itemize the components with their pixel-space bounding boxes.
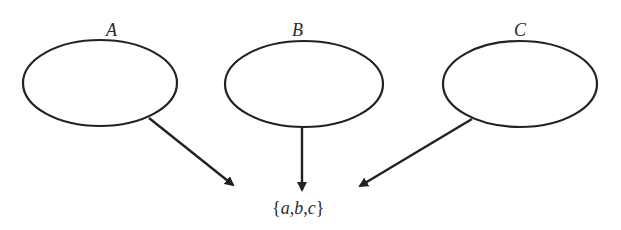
node-c: C bbox=[443, 20, 597, 127]
arrow-c-to-result bbox=[360, 119, 472, 186]
label-b: B bbox=[292, 20, 303, 40]
ellipse-b bbox=[225, 41, 383, 127]
result-set: {a,b,c} bbox=[272, 198, 324, 218]
arrow-a-to-result bbox=[149, 118, 233, 185]
set-diagram: A B C {a,b,c} bbox=[0, 0, 621, 230]
label-a: A bbox=[105, 20, 118, 40]
node-a: A bbox=[23, 20, 177, 126]
label-c: C bbox=[514, 20, 527, 40]
ellipse-c bbox=[443, 41, 597, 127]
node-b: B bbox=[225, 20, 383, 127]
ellipse-a bbox=[23, 40, 177, 126]
